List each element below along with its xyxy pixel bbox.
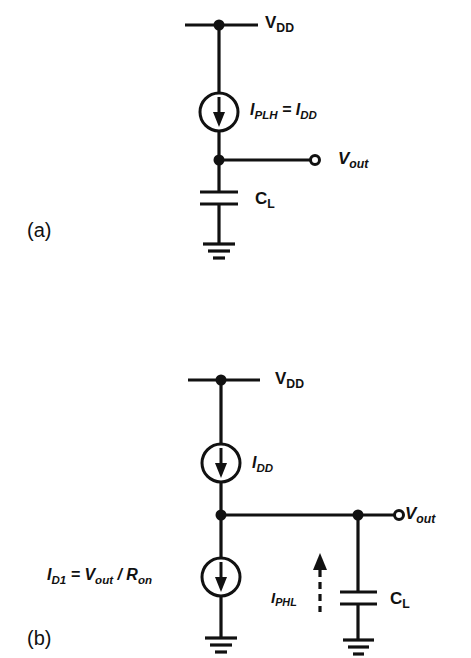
- output-terminal-icon: [395, 511, 404, 520]
- current-source-icon: [202, 444, 240, 482]
- panel-a-circuit: [185, 20, 320, 259]
- capacitor-icon: [200, 192, 238, 204]
- current-source-icon: [200, 93, 238, 131]
- vout-label-a: Vout: [338, 150, 368, 167]
- capacitor-label-a: CL: [255, 190, 275, 207]
- vout-label-b: Vout: [405, 505, 435, 522]
- panel-label-a: (a): [27, 220, 51, 240]
- capacitor-icon: [340, 592, 377, 604]
- ground-icon: [343, 640, 374, 654]
- output-terminal-icon: [311, 156, 320, 165]
- current-source-label-b-top: IDD: [252, 455, 273, 471]
- ground-icon: [205, 638, 237, 652]
- circuit-diagram: [0, 0, 471, 658]
- capacitor-label-b: CL: [390, 590, 410, 607]
- current-source-label-a: IPLH = IDD: [250, 102, 317, 118]
- current-source-label-b-bottom: ID1 = Vout / Ron: [47, 567, 152, 583]
- discharge-current-label: IPHL: [271, 590, 297, 605]
- ground-icon: [203, 244, 235, 258]
- vdd-label-b: VDD: [275, 370, 304, 387]
- dashed-arrow-up-icon: [313, 553, 327, 612]
- panel-label-b: (b): [27, 628, 51, 648]
- vdd-label-a: VDD: [265, 14, 294, 31]
- panel-b-circuit: [188, 375, 404, 655]
- current-source-icon: [202, 558, 240, 596]
